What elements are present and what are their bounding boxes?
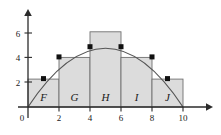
x-tick-label-10: 10 — [179, 113, 189, 123]
marked-point-x1 — [41, 76, 46, 81]
region-label-H: H — [101, 91, 111, 103]
x-tick-label-4: 4 — [88, 113, 93, 123]
x-tick-label-2: 2 — [57, 113, 62, 123]
x-axis-arrow — [206, 103, 213, 111]
marked-point-x6 — [119, 44, 124, 49]
y-tick-label-2: 2 — [16, 78, 21, 88]
marked-point-x2 — [57, 54, 62, 59]
region-label-F: F — [39, 91, 47, 103]
y-tick-label-6: 6 — [16, 29, 21, 39]
marked-point-x8 — [150, 54, 155, 59]
region-label-G: G — [71, 91, 79, 103]
marked-point-x4 — [88, 44, 93, 49]
x-tick-label-0: 0 — [20, 113, 25, 123]
marked-point-x9 — [165, 76, 170, 81]
y-tick-label-4: 4 — [16, 53, 21, 63]
x-tick-label-8: 8 — [150, 113, 155, 123]
riemann-sum-chart: 0 2 4 6 8 10 2 4 6 F G H I J — [0, 0, 221, 135]
x-tick-label-6: 6 — [119, 113, 124, 123]
y-axis-arrow — [24, 9, 32, 16]
figure-container: 0 2 4 6 8 10 2 4 6 F G H I J — [0, 0, 221, 135]
x-tick-group — [59, 107, 183, 112]
